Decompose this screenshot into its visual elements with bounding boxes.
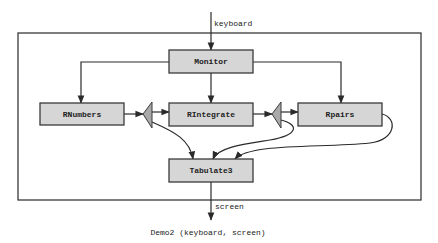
splitter-1-icon xyxy=(143,102,152,128)
screen-channel-label: screen xyxy=(215,202,244,211)
node-rintegrate-label: RIntegrate xyxy=(187,110,235,119)
node-rpairs: Rpairs xyxy=(298,103,382,126)
node-rnumbers-label: RNumbers xyxy=(63,110,102,119)
edge-monitor-rnumbers xyxy=(81,62,169,103)
process-network-diagram: keyboard screen Monitor RNumbers RIntegr… xyxy=(0,0,438,243)
splitter-2-icon xyxy=(272,102,281,128)
keyboard-channel-label: keyboard xyxy=(214,19,253,28)
node-tabulate3: Tabulate3 xyxy=(169,159,253,182)
node-tabulate3-label: Tabulate3 xyxy=(189,166,232,175)
node-monitor: Monitor xyxy=(169,50,253,73)
node-rpairs-label: Rpairs xyxy=(326,110,355,119)
diagram-caption: Demo2 (keyboard, screen) xyxy=(150,228,265,237)
edge-splitter1-tabulate3 xyxy=(152,122,193,159)
node-rnumbers: RNumbers xyxy=(40,103,124,125)
node-monitor-label: Monitor xyxy=(194,57,228,66)
node-rintegrate: RIntegrate xyxy=(169,103,253,126)
edge-monitor-rpairs xyxy=(253,62,341,103)
